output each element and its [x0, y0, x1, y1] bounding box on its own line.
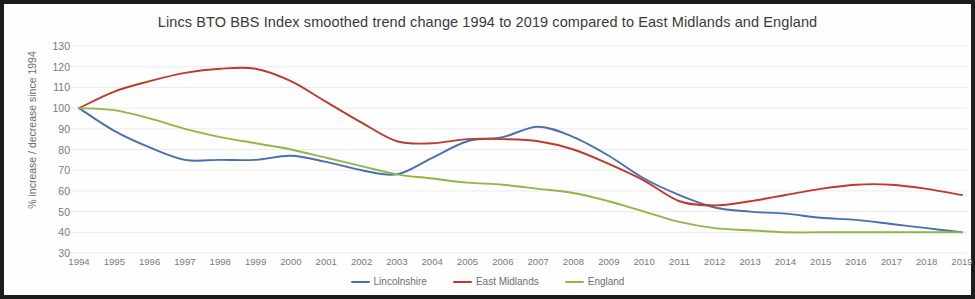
x-axis-tick-label: 1994	[59, 256, 99, 267]
chart-canvas: Lincs BTO BBS Index smoothed trend chang…	[4, 4, 971, 295]
legend-swatch-icon	[565, 281, 584, 283]
legend-item-lincolnshire[interactable]: Lincolnshire	[351, 276, 427, 287]
series-line-east-midlands	[79, 68, 962, 206]
x-axis-tick-label: 2008	[553, 256, 593, 267]
x-axis-tick-label: 2011	[659, 256, 699, 267]
x-axis-tick-label: 2010	[624, 256, 664, 267]
x-axis-tick-label: 2001	[306, 256, 346, 267]
x-axis-tick-label: 2014	[765, 256, 805, 267]
legend-label: Lincolnshire	[374, 276, 427, 287]
x-axis-tick-label: 1997	[165, 256, 205, 267]
x-axis-tick-label: 1995	[94, 256, 134, 267]
x-axis-tick-label: 2012	[695, 256, 735, 267]
x-axis-tick-label: 2006	[483, 256, 523, 267]
legend-swatch-icon	[453, 281, 472, 283]
chart-screenshot-frame: Lincs BTO BBS Index smoothed trend chang…	[0, 0, 975, 299]
x-axis-tick-label: 2009	[589, 256, 629, 267]
legend-item-england[interactable]: England	[565, 276, 625, 287]
x-axis-tick-label: 2019	[942, 256, 975, 267]
legend-label: England	[588, 276, 625, 287]
x-axis-tick-label: 1999	[236, 256, 276, 267]
legend-swatch-icon	[351, 281, 370, 283]
x-axis-tick-label: 2004	[412, 256, 452, 267]
legend-item-east-midlands[interactable]: East Midlands	[453, 276, 539, 287]
gridlines	[70, 46, 967, 253]
x-axis-tick-label: 2000	[271, 256, 311, 267]
x-axis-tick-label: 2015	[801, 256, 841, 267]
x-axis-tick-label: 2003	[377, 256, 417, 267]
x-axis-tick-label: 1996	[130, 256, 170, 267]
x-axis-tick-label: 1998	[200, 256, 240, 267]
plot-area	[4, 4, 971, 295]
series-lines	[79, 68, 962, 233]
x-axis-tick-label: 2005	[448, 256, 488, 267]
x-axis-tick-label: 2016	[836, 256, 876, 267]
x-axis-tick-label: 2002	[342, 256, 382, 267]
x-axis-tick-label: 2018	[907, 256, 947, 267]
x-axis-tick-label: 2007	[518, 256, 558, 267]
x-axis-tick-label: 2017	[871, 256, 911, 267]
legend-label: East Midlands	[476, 276, 539, 287]
chart-legend: LincolnshireEast MidlandsEngland	[4, 276, 971, 287]
x-axis-tick-label: 2013	[730, 256, 770, 267]
